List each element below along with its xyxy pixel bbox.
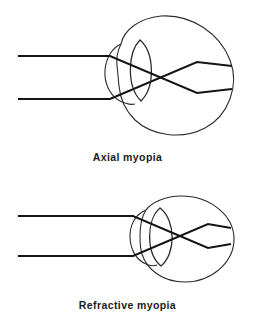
refractive-myopia-diagram [0,178,255,290]
eye-globe-outline [117,16,234,135]
light-ray-lower [18,224,231,256]
axial-myopia-diagram [0,0,255,145]
crystalline-lens [150,208,173,266]
axial-myopia-caption: Axial myopia [0,151,255,163]
refractive-myopia-figure: Refractive myopia [0,178,255,319]
refractive-myopia-caption: Refractive myopia [0,299,255,311]
light-ray-upper [18,216,231,248]
axial-myopia-figure: Axial myopia [0,0,255,170]
crystalline-lens [130,40,151,101]
